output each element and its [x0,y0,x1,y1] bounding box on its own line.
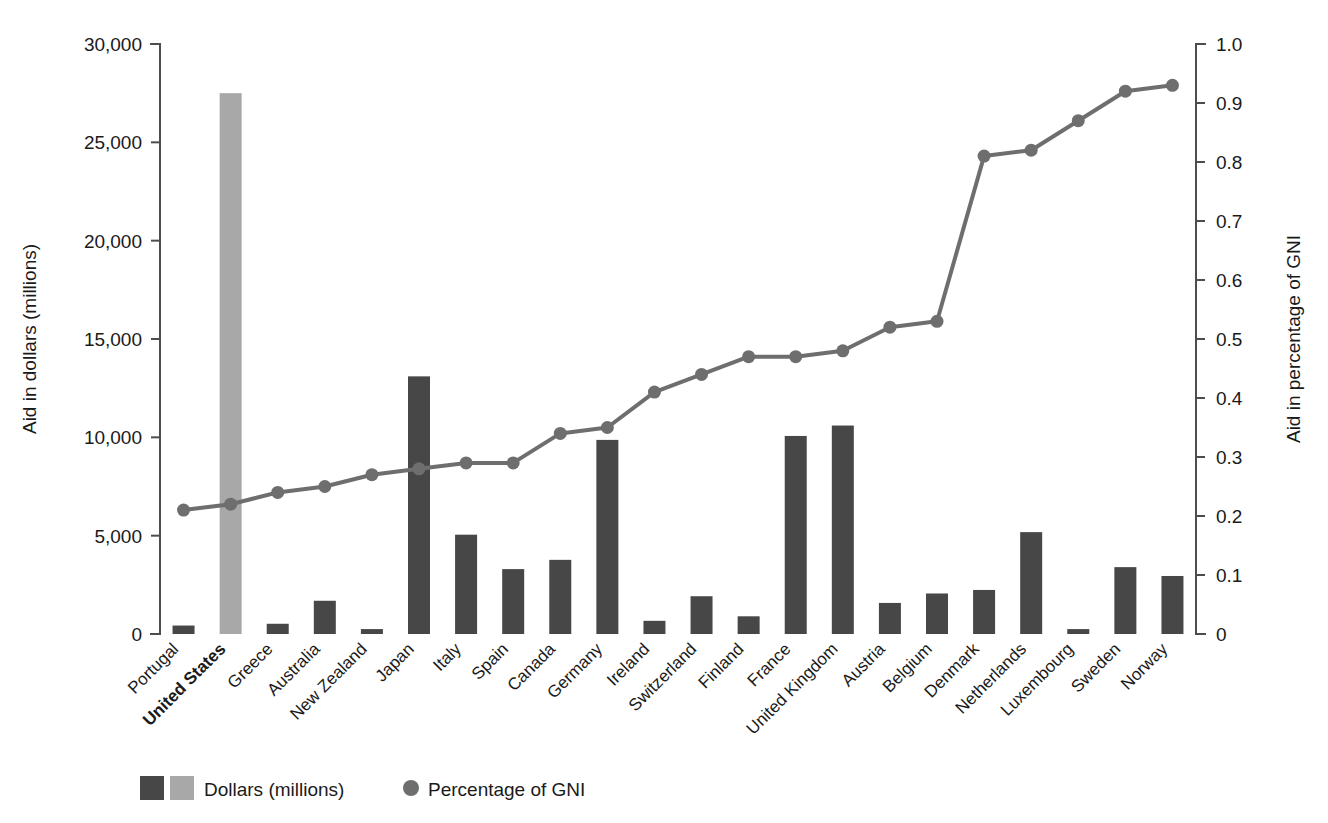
axis-titles: Aid in dollars (millions)Aid in percenta… [19,235,1304,443]
legend-label-dollars: Dollars (millions) [204,779,344,800]
category-label: Sweden [1067,639,1124,696]
bar [738,616,760,634]
bar [926,593,948,634]
gni-percentage-line [184,85,1173,510]
line-data-point [413,462,426,475]
y-axis-left-title: Aid in dollars (millions) [19,244,40,434]
line-data-point [742,350,755,363]
y-axis-right-tick-label: 0.8 [1216,152,1242,173]
y-axis-left-tick-label: 0 [131,624,142,645]
category-label: United States [139,639,229,729]
bar [785,436,807,634]
legend-swatch-dollars-dark [140,776,164,800]
bar [173,626,195,634]
bar [832,426,854,634]
bar [361,629,383,634]
y-axis-right-tick-label: 0.4 [1216,388,1243,409]
line-data-point [931,315,944,328]
line-data-point [1025,144,1038,157]
category-label: Finland [695,639,748,692]
line-data-point [648,386,661,399]
bar [691,596,713,634]
line-data-point [460,456,473,469]
y-axis-right-tick-label: 0.7 [1216,211,1242,232]
y-axis-right-tick-label: 0.6 [1216,270,1242,291]
legend-swatch-dollars-light [170,776,194,800]
bar [596,440,618,634]
y-axis-right-tick-label: 0.9 [1216,93,1242,114]
bar [879,603,901,634]
bar [408,376,430,634]
line-data-point [789,350,802,363]
line-data-point [836,344,849,357]
y-axis-right-tick-label: 0.3 [1216,447,1242,468]
line-series [177,79,1179,517]
aid-by-country-chart: 05,00010,00015,00020,00025,00030,000 00.… [0,0,1328,823]
bar [1067,629,1089,634]
y-axis-right-ticks: 00.10.20.30.40.50.60.70.80.91.0 [1196,34,1243,645]
line-data-point [1166,79,1179,92]
y-axis-right-tick-label: 0 [1216,624,1227,645]
y-axis-right-tick-label: 0.2 [1216,506,1242,527]
y-axis-right-tick-label: 1.0 [1216,34,1242,55]
y-axis-left-tick-label: 5,000 [94,526,142,547]
line-data-point [1072,114,1085,127]
line-data-point [601,421,614,434]
category-labels: PortugalUnited StatesGreeceAustraliaNew … [124,639,1171,738]
y-axis-left-ticks: 05,00010,00015,00020,00025,00030,000 [84,34,160,645]
bar [549,560,571,634]
line-data-point [365,468,378,481]
line-data-point [883,321,896,334]
y-axis-left-tick-label: 25,000 [84,132,142,153]
line-data-point [1119,85,1132,98]
line-data-point [177,504,190,517]
line-data-point [271,486,284,499]
chart-page: 05,00010,00015,00020,00025,00030,000 00.… [0,0,1328,823]
category-label: Norway [1117,639,1172,694]
y-axis-right-tick-label: 0.5 [1216,329,1242,350]
category-label: Italy [429,639,465,675]
bar [1020,532,1042,634]
line-data-point [318,480,331,493]
y-axis-right-tick-label: 0.1 [1216,565,1242,586]
line-data-point [507,456,520,469]
y-axis-left-tick-label: 15,000 [84,329,142,350]
bar [1114,567,1136,634]
line-data-point [224,498,237,511]
bar [314,601,336,634]
y-axis-left-tick-label: 10,000 [84,427,142,448]
bar [502,569,524,634]
bar [643,621,665,634]
bar-highlight [220,93,242,634]
y-axis-right-title: Aid in percentage of GNI [1283,235,1304,443]
chart-legend: Dollars (millions)Percentage of GNI [140,776,585,800]
y-axis-left-tick-label: 30,000 [84,34,142,55]
bar [973,590,995,634]
line-data-point [554,427,567,440]
bar-series [173,93,1184,634]
bar [455,535,477,634]
bar [1161,576,1183,634]
line-data-point [695,368,708,381]
bar [267,624,289,634]
category-label: Spain [468,639,512,683]
line-data-point [978,150,991,163]
axis-lines [150,44,1206,634]
legend-label-gni: Percentage of GNI [428,779,585,800]
legend-marker-gni [403,780,419,796]
category-label: Japan [372,639,418,685]
y-axis-left-tick-label: 20,000 [84,231,142,252]
